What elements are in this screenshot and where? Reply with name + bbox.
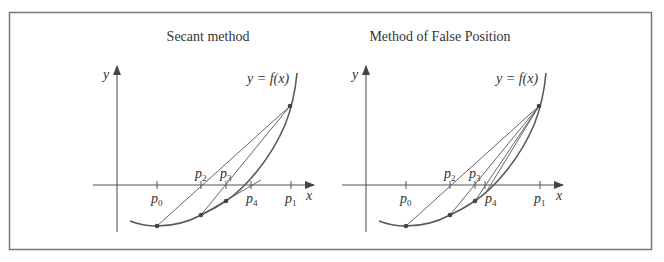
y-axis-label: y xyxy=(101,67,110,82)
curve-label: y = f(x) xyxy=(494,71,538,87)
point-p1 xyxy=(537,104,542,109)
point-p0 xyxy=(155,224,160,229)
x-axis-label: x xyxy=(555,188,563,203)
point-p3 xyxy=(473,199,478,204)
panel-title: Secant method xyxy=(167,29,250,44)
x-axis-label: x xyxy=(305,188,313,203)
point-p3 xyxy=(224,199,229,204)
point-p2 xyxy=(199,213,204,218)
point-p1 xyxy=(288,104,293,109)
point-p0 xyxy=(404,224,409,229)
panel-title: Method of False Position xyxy=(369,29,510,44)
y-axis-label: y xyxy=(350,67,359,82)
figure-frame xyxy=(10,13,652,250)
root-finding-figure: Secant method y x p0 p2 p3 p4 p1 y = f(x… xyxy=(0,0,664,262)
curve-label: y = f(x) xyxy=(245,71,289,87)
point-p2 xyxy=(448,213,453,218)
